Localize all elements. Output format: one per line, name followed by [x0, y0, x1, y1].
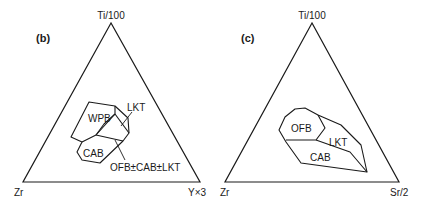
panel-label-b: (b) [36, 32, 50, 44]
field-label-lkt-c: LKT [329, 137, 347, 148]
field-label-ofb-cab-lkt: OFB±CAB±LKT [110, 162, 180, 173]
apex-left-label-c: Zr [220, 187, 230, 198]
field-label-lkt-b: LKT [127, 102, 145, 113]
apex-right-label-c: Sr/2 [390, 187, 409, 198]
field-label-cab-c: CAB [310, 152, 331, 163]
wpb-cab-boundary [82, 106, 115, 142]
field-label-wpb: WPB [88, 113, 111, 124]
apex-top-label-b: Ti/100 [97, 10, 125, 21]
panel-label-c: (c) [241, 32, 255, 44]
ternary-diagrams: Ti/100 Zr Y×3 (b) WPB LKT CAB OFB±CAB±LK… [0, 0, 426, 209]
apex-top-label-c: Ti/100 [298, 10, 326, 21]
ternary-diagram-b: Ti/100 Zr Y×3 (b) WPB LKT CAB OFB±CAB±LK… [14, 10, 207, 198]
cab-ofb-boundary [96, 135, 123, 141]
ternary-diagram-c: Ti/100 Zr Sr/2 (c) OFB LKT CAB [220, 10, 409, 198]
apex-left-label-b: Zr [14, 187, 24, 198]
apex-right-label-b: Y×3 [188, 187, 207, 198]
field-label-ofb-c: OFB [291, 123, 312, 134]
lkt-leader-line-b [121, 112, 132, 126]
field-label-cab-b: CAB [83, 148, 104, 159]
triangle-b-frame [23, 23, 200, 182]
ofb-leader-line-b [115, 140, 125, 160]
